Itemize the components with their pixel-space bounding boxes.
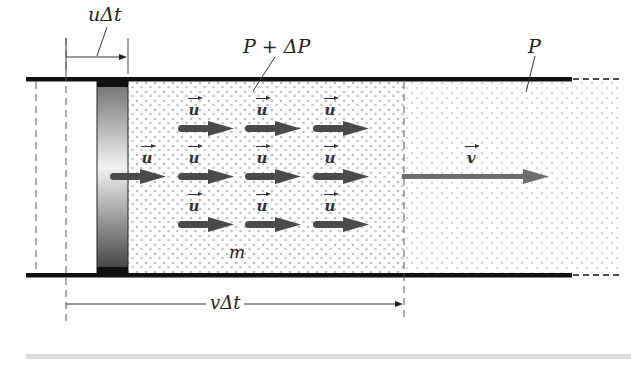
piston-top-cap [97,81,128,87]
v-vector-label: v [464,151,478,166]
u-vector-label: u [323,103,337,118]
u-vector-label: u [255,103,269,118]
u-vector-label: u [255,199,269,214]
u-vector-label: u [255,151,269,166]
v-dt-arrowhead-icon [395,301,403,307]
pressure-low-label: P [528,37,541,56]
u-dt-label: uΔt [88,5,122,24]
u-vector-label: u [187,103,201,118]
v-dt-label: vΔt [210,294,240,312]
tube-top-wall [26,77,572,82]
u-vector-label: u [323,199,337,214]
u-vector-label: u [323,151,337,166]
pressure-high-label: P + ΔP [243,37,310,56]
u-vector-label: u [187,151,201,166]
u-vector-label: u [140,151,154,166]
u-dt-arrowhead-icon [119,54,127,60]
u-dt-leader [97,27,107,56]
u-vector-label: u [187,199,201,214]
piston-bottom-cap [97,267,128,273]
tube-bottom-wall [26,273,572,278]
mass-label: m [229,244,245,261]
bottom-divider-bar [26,354,631,359]
